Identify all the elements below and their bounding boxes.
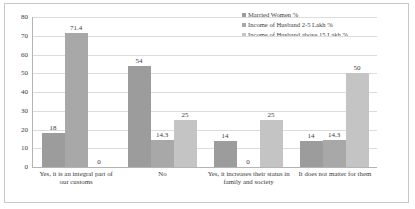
y-axis-tick-label: 20 <box>21 126 28 133</box>
bar-value-label: 14.3 <box>156 132 168 139</box>
bar-group: 1871.40 <box>33 17 119 167</box>
bar[interactable]: 14.3 <box>323 140 346 167</box>
bar-value-label: 54 <box>136 58 143 65</box>
bar[interactable]: 54 <box>128 66 151 167</box>
bar-value-label: 25 <box>182 112 189 119</box>
bar-value-label: 0 <box>246 159 250 166</box>
bar-value-label: 14 <box>308 133 315 140</box>
bar-slot: 14.3 <box>151 17 174 167</box>
bar-slot: 71.4 <box>65 17 88 167</box>
bar[interactable]: 14 <box>300 141 323 167</box>
bar-group: 1414.350 <box>291 17 377 167</box>
legend-swatch-icon <box>242 13 246 17</box>
gridline: 0 <box>32 167 377 168</box>
y-axis-tick-label: 80 <box>21 14 28 21</box>
x-axis-category-label: It does not matter for them <box>292 170 378 204</box>
bar-slot: 25 <box>174 17 197 167</box>
bar-slot: 14 <box>214 17 237 167</box>
bar[interactable]: 14.3 <box>151 140 174 167</box>
bar[interactable]: 14 <box>214 141 237 167</box>
bar[interactable]: 25 <box>260 120 283 167</box>
bar[interactable]: 71.4 <box>65 33 88 167</box>
bar-groups: 1871.405414.325140251414.350 <box>33 17 377 167</box>
x-axis-category-label: No <box>119 170 205 204</box>
bar-slot: 50 <box>346 17 369 167</box>
bar-slot: 14 <box>300 17 323 167</box>
bar-group: 5414.325 <box>119 17 205 167</box>
y-axis-tick-label: 60 <box>21 51 28 58</box>
chart-container: Married Women %Income of Husband 2-5 Lak… <box>4 3 409 203</box>
y-axis-tick-label: 10 <box>21 145 28 152</box>
y-axis-tick-label: 30 <box>21 107 28 114</box>
y-axis-tick-label: 0 <box>25 164 29 171</box>
x-axis-category-label: Yes, it is an integral part of our custo… <box>33 170 119 204</box>
bar[interactable]: 50 <box>346 73 369 167</box>
bar-value-label: 50 <box>354 65 361 72</box>
bar-slot: 0 <box>237 17 260 167</box>
x-axis-category-label: Yes, it increases their status in family… <box>206 170 292 204</box>
bar[interactable]: 18 <box>42 133 65 167</box>
plot-area: 80706050403020100 1871.405414.3251402514… <box>32 17 377 167</box>
bar-value-label: 14 <box>222 133 229 140</box>
bar-slot: 0 <box>88 17 111 167</box>
bar-slot: 54 <box>128 17 151 167</box>
x-axis-category-labels: Yes, it is an integral part of our custo… <box>33 170 378 204</box>
y-axis-tick-label: 70 <box>21 32 28 39</box>
bar-value-label: 0 <box>97 159 101 166</box>
bar-group: 14025 <box>205 17 291 167</box>
bar[interactable]: 25 <box>174 120 197 167</box>
bar-slot: 14.3 <box>323 17 346 167</box>
bar-slot: 18 <box>42 17 65 167</box>
bar-value-label: 71.4 <box>70 25 82 32</box>
bar-value-label: 25 <box>268 112 275 119</box>
y-axis-tick-label: 50 <box>21 70 28 77</box>
bar-value-label: 18 <box>50 125 57 132</box>
bar-slot: 25 <box>260 17 283 167</box>
bar-value-label: 14.3 <box>328 132 340 139</box>
y-axis-tick-label: 40 <box>21 89 28 96</box>
